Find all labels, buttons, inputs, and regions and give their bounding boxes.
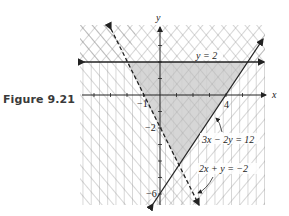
tick-y-neg2: −2: [145, 122, 156, 133]
label-2x-plus-y-neg2: 2x + y = −2: [199, 163, 248, 174]
shading-layer: [80, 25, 265, 205]
y-axis-label: y: [155, 12, 161, 23]
label-y-equals-2: y = 2: [195, 50, 217, 61]
x-axis-label: x: [271, 89, 277, 100]
inequality-graph: x y −1 4 −2 −6 y = 2 3x − 2y = 12 2x + y…: [0, 0, 289, 216]
tick-x-4: 4: [224, 99, 229, 110]
tick-x-neg1: −1: [137, 98, 148, 109]
label-3x-minus-2y-12: 3x − 2y = 12: [201, 134, 254, 145]
tick-y-neg6: −6: [146, 188, 157, 199]
